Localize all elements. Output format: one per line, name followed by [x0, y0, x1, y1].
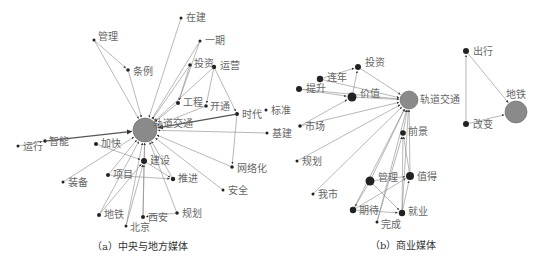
- node-label: 项目: [113, 169, 133, 180]
- hub-node: [505, 101, 527, 123]
- edge: [409, 110, 410, 172]
- node-0-19: [222, 189, 225, 192]
- node-label: 管理: [98, 30, 118, 42]
- node-1-3: [348, 93, 357, 102]
- node-0-13: [94, 142, 98, 146]
- node-label: 市场: [305, 120, 325, 132]
- node-0-7: [204, 104, 208, 108]
- edge: [353, 71, 357, 93]
- node-label: 安全: [228, 184, 248, 196]
- node-label: 规划: [182, 207, 202, 219]
- node-0-14: [141, 158, 147, 164]
- node-0-15: [230, 165, 234, 169]
- node-0-17: [171, 177, 175, 181]
- node-0-16: [106, 173, 110, 177]
- node-label: 连年: [327, 71, 347, 83]
- hub-label: 地铁: [506, 88, 526, 100]
- node-0-4: [188, 63, 192, 67]
- node-2-0: [463, 48, 469, 54]
- node-1-8: [366, 177, 375, 186]
- hub-label: 轨道交通: [153, 117, 193, 129]
- node-label: 加快: [101, 138, 121, 149]
- edge: [128, 72, 141, 118]
- edge: [207, 69, 214, 103]
- edge: [152, 66, 189, 119]
- node-label: 网络化: [237, 162, 267, 174]
- edge: [150, 142, 177, 211]
- node-0-6: [176, 101, 180, 105]
- node-label: 标准: [271, 105, 291, 116]
- node-label: 开通: [210, 101, 230, 112]
- node-0-18: [62, 181, 65, 184]
- caption-a: （a）中央与地方媒体: [92, 240, 188, 252]
- node-label: 智能: [49, 135, 69, 147]
- node-0-2: [199, 40, 202, 43]
- node-1-0: [355, 64, 361, 70]
- node-label: 地铁: [104, 208, 124, 220]
- node-label: 价值: [360, 87, 380, 99]
- node-label: 建设: [150, 154, 170, 166]
- node-1-9: [312, 193, 315, 196]
- nodes-layer: [17, 17, 528, 228]
- node-1-4: [298, 124, 302, 128]
- node-label: 规划: [302, 155, 322, 167]
- node-label: 完成: [381, 218, 401, 230]
- node-label: 出行: [473, 45, 493, 57]
- node-label: 运行: [23, 140, 43, 152]
- node-0-23: [125, 225, 128, 228]
- node-1-2: [296, 86, 302, 92]
- edge: [356, 179, 406, 209]
- node-label: 我市: [318, 188, 338, 200]
- node-label: 在建: [186, 11, 206, 23]
- node-0-22: [175, 211, 179, 215]
- node-label: 一期: [205, 35, 225, 46]
- edge: [298, 105, 400, 160]
- node-label: 值得: [417, 170, 437, 182]
- node-0-8: [235, 112, 239, 116]
- node-1-6: [296, 160, 299, 163]
- node-label: 西安: [148, 211, 168, 223]
- node-label: 条例: [133, 65, 153, 77]
- hub-node: [400, 91, 418, 109]
- edge: [155, 68, 213, 121]
- node-label: 投资: [365, 56, 385, 68]
- hub-label: 轨道交通: [420, 93, 460, 105]
- caption-b: （b）商业媒体: [370, 239, 436, 251]
- node-1-10: [350, 207, 356, 213]
- node-1-12: [376, 221, 379, 224]
- edge: [95, 41, 126, 68]
- node-0-20: [97, 213, 101, 217]
- edge: [468, 53, 508, 102]
- node-1-5: [400, 130, 406, 136]
- network-diagram: 在建管理一期条例投资运营工程开通时代标准基建智能运行加快建设网络化项目推进装备安…: [0, 0, 558, 256]
- node-label: 提升: [306, 83, 326, 94]
- edge: [354, 109, 404, 207]
- node-0-1: [93, 39, 96, 42]
- node-2-1: [463, 121, 469, 127]
- node-0-3: [126, 68, 130, 72]
- node-1-7: [406, 172, 414, 180]
- node-1-1: [317, 76, 323, 82]
- edge: [149, 19, 181, 117]
- node-label: 期待: [359, 204, 379, 216]
- node-label: 就业: [408, 205, 428, 217]
- edge: [179, 67, 190, 100]
- node-label: 时代: [242, 109, 262, 120]
- node-0-10: [266, 132, 269, 135]
- node-label: 基建: [272, 127, 292, 139]
- node-label: 运营: [220, 59, 240, 71]
- node-label: 工程: [183, 97, 203, 108]
- node-label: 装备: [68, 176, 88, 188]
- node-label: 推进: [178, 172, 198, 184]
- node-label: 改变: [473, 118, 493, 130]
- node-0-12: [17, 145, 20, 148]
- edges-layer: [19, 19, 508, 224]
- edge: [158, 130, 266, 133]
- edge: [179, 42, 199, 100]
- node-0-9: [265, 109, 268, 112]
- node-label: 管理: [378, 171, 398, 183]
- node-label: 前景: [408, 125, 428, 137]
- edge: [95, 41, 139, 118]
- node-label: 投资: [194, 57, 214, 69]
- edge: [355, 185, 368, 206]
